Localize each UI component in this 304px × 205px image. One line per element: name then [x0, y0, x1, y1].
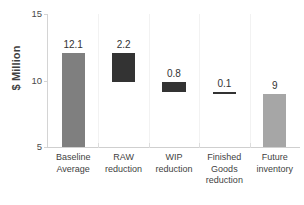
category-label: Finished Goods reduction: [201, 152, 247, 187]
x-axis-line: [47, 147, 300, 148]
category-label: WIP reduction: [151, 152, 197, 175]
y-tick-mark: [44, 14, 48, 15]
category-divider-tick: [250, 143, 251, 148]
category-divider-tick: [98, 143, 99, 148]
category-divider-tick: [149, 143, 150, 148]
bar: [162, 82, 185, 93]
data-label: 0.1: [199, 79, 249, 89]
data-label: 0.8: [149, 69, 199, 79]
category-label: Future inventory: [252, 152, 298, 175]
category-divider-tick: [199, 143, 200, 148]
bar: [62, 53, 85, 147]
data-label: 2.2: [98, 40, 148, 50]
category-label: RAW reduction: [100, 152, 146, 175]
category-gridline: [98, 14, 99, 147]
data-label: 9: [250, 81, 300, 91]
bar: [213, 92, 236, 94]
bar: [112, 53, 135, 82]
y-tick-label: 15: [20, 9, 42, 19]
bar-chart: $ Million 51015 12.12.20.80.19 Baseline …: [0, 0, 304, 205]
category-gridline: [149, 14, 150, 147]
bar: [263, 94, 286, 147]
category-label: Baseline Average: [50, 152, 96, 175]
data-label: 12.1: [48, 40, 98, 50]
y-tick-mark: [44, 81, 48, 82]
y-tick-label: 5: [20, 142, 42, 152]
y-tick-label: 10: [20, 76, 42, 86]
y-axis-ticks: 51015: [18, 0, 42, 205]
